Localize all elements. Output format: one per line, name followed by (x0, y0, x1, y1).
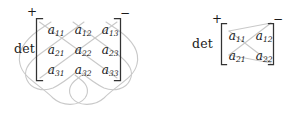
det-label-2x2: det (192, 38, 213, 51)
matrix-entry-3x3-r3c2: a32 (75, 64, 92, 76)
entry-subscript: 33 (109, 69, 118, 78)
entry-subscript: 22 (82, 49, 91, 58)
matrix-entry-3x3-r3c1: a31 (48, 64, 65, 76)
entry-subscript: 11 (236, 35, 245, 44)
entry-subscript: 21 (55, 49, 64, 58)
plus-sign-2x2: + (212, 13, 222, 25)
text-layer: det + − a11 a12 a13 a21 a22 a23 a31 a32 … (0, 0, 301, 113)
det-label-3x3: det (14, 43, 35, 56)
entry-subscript: 21 (236, 55, 245, 64)
entry-subscript: 32 (82, 69, 91, 78)
entry-subscript: 23 (109, 49, 118, 58)
matrix-entry-3x3-r1c2: a12 (75, 24, 92, 36)
matrix-entry-2x2-r2c1: a21 (229, 50, 246, 62)
matrix-entry-2x2-r1c2: a12 (256, 30, 273, 42)
entry-subscript: 12 (263, 35, 272, 44)
matrix-entry-3x3-r2c3: a23 (102, 44, 119, 56)
minus-sign-3x3: − (120, 7, 130, 19)
matrix-entry-3x3-r1c1: a11 (48, 24, 65, 36)
matrix-entry-2x2-r1c1: a11 (229, 30, 246, 42)
matrix-entry-3x3-r2c1: a21 (48, 44, 65, 56)
matrix-entry-2x2-r2c2: a22 (256, 50, 273, 62)
matrix-entry-3x3-r2c2: a22 (75, 44, 92, 56)
entry-subscript: 12 (82, 29, 91, 38)
entry-subscript: 31 (55, 69, 64, 78)
matrix-entry-3x3-r1c3: a13 (102, 24, 119, 36)
entry-subscript: 13 (109, 29, 118, 38)
entry-subscript: 11 (55, 29, 64, 38)
matrix-entry-3x3-r3c3: a33 (102, 64, 119, 76)
sarrus-rule-figure: det + − a11 a12 a13 a21 a22 a23 a31 a32 … (0, 0, 301, 113)
plus-sign-3x3: + (27, 6, 37, 18)
entry-subscript: 22 (263, 55, 272, 64)
minus-sign-2x2: − (273, 13, 283, 25)
